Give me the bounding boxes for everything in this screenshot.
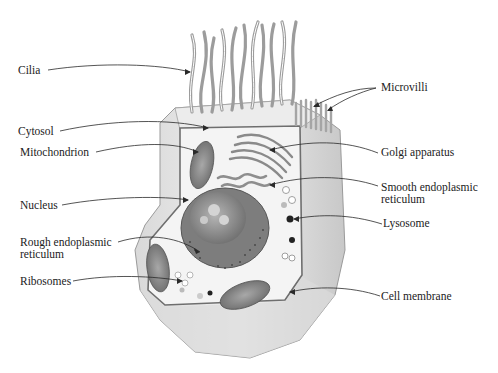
- label-cytosol: Cytosol: [18, 125, 54, 138]
- label-cell-membrane: Cell membrane: [381, 290, 452, 303]
- label-mitochondrion: Mitochondrion: [20, 146, 89, 159]
- label-ribosomes: Ribosomes: [20, 275, 71, 288]
- label-lysosome: Lysosome: [383, 217, 430, 230]
- label-nucleus: Nucleus: [20, 199, 58, 212]
- label-golgi-apparatus: Golgi apparatus: [381, 146, 454, 159]
- label-smooth-er-line2: reticulum: [381, 193, 425, 206]
- cilia: [190, 22, 296, 112]
- nucleus: [181, 188, 269, 268]
- label-cilia: Cilia: [18, 64, 40, 77]
- label-microvilli: Microvilli: [381, 81, 428, 94]
- label-rough-er-line2: reticulum: [20, 248, 64, 261]
